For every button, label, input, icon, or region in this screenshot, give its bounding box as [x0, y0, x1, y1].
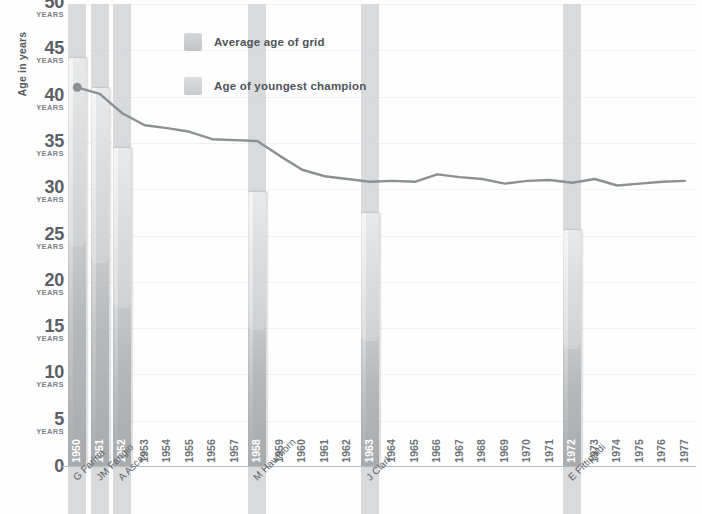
gridline-40	[66, 97, 696, 98]
gridline-50	[66, 4, 696, 5]
legend-item-youngest-champion[interactable]: Age of youngest champion	[184, 77, 366, 95]
year-label-1955: 1955	[184, 439, 195, 463]
y-tick-unit: YEARS	[22, 380, 64, 389]
year-label-1962: 1962	[341, 439, 352, 463]
legend-swatch-average-age	[184, 33, 202, 51]
y-tick-value: 40	[22, 88, 64, 103]
year-label-1966: 1966	[431, 439, 442, 463]
bar-lower-segment	[91, 248, 109, 467]
y-tick-unit: YEARS	[22, 334, 64, 343]
bar-lower-segment	[68, 231, 86, 467]
y-tick-unit: YEARS	[22, 10, 64, 19]
y-tick-0: 0	[22, 459, 64, 473]
y-tick-unit: YEARS	[22, 288, 64, 297]
year-label-1965: 1965	[409, 439, 420, 463]
plot-area: 1950195119521953195419551956195719581959…	[66, 4, 696, 467]
gridline-15	[66, 328, 696, 329]
y-tick-45: 45YEARS	[22, 41, 64, 65]
bar-1952[interactable]	[113, 147, 131, 467]
year-label-1971: 1971	[544, 439, 555, 463]
y-tick-unit: YEARS	[22, 103, 64, 112]
y-tick-value: 35	[22, 134, 64, 149]
year-label-1963: 1963	[364, 439, 375, 463]
y-tick-5: 5YEARS	[22, 412, 64, 436]
gridline-10	[66, 374, 696, 375]
gridline-5	[66, 421, 696, 422]
y-tick-value: 45	[22, 41, 64, 56]
y-tick-50: 50YEARS	[22, 0, 64, 19]
y-tick-15: 15YEARS	[22, 319, 64, 343]
year-label-1969: 1969	[499, 439, 510, 463]
y-tick-unit: YEARS	[22, 195, 64, 204]
year-label-1960: 1960	[296, 439, 307, 463]
year-label-1956: 1956	[206, 439, 217, 463]
year-label-1958: 1958	[251, 439, 262, 463]
year-label-1977: 1977	[679, 439, 690, 463]
bar-upper-segment	[68, 57, 86, 247]
year-label-1950: 1950	[71, 439, 82, 463]
y-tick-value: 25	[22, 227, 64, 242]
year-label-1968: 1968	[476, 439, 487, 463]
y-tick-30: 30YEARS	[22, 180, 64, 204]
y-tick-35: 35YEARS	[22, 134, 64, 158]
y-tick-unit: YEARS	[22, 149, 64, 158]
y-tick-value: 20	[22, 273, 64, 288]
gridline-35	[66, 143, 696, 144]
gridline-45	[66, 50, 696, 51]
bar-1972[interactable]	[563, 229, 581, 467]
bar-upper-segment	[563, 229, 581, 349]
y-tick-value: 15	[22, 319, 64, 334]
y-tick-value: 30	[22, 180, 64, 195]
legend-label-average-age: Average age of grid	[214, 36, 325, 48]
year-label-1954: 1954	[161, 439, 172, 463]
y-tick-unit: YEARS	[22, 56, 64, 65]
y-tick-value: 10	[22, 365, 64, 380]
bar-1963[interactable]	[361, 212, 379, 467]
chart-root: Age in years 50YEARS45YEARS40YEARS35YEAR…	[0, 0, 702, 514]
legend-item-average-age[interactable]: Average age of grid	[184, 33, 325, 51]
bar-upper-segment	[113, 147, 131, 308]
y-tick-value: 0	[22, 459, 64, 473]
bar-upper-segment	[361, 212, 379, 340]
year-label-1961: 1961	[319, 439, 330, 463]
gridline-30	[66, 189, 696, 190]
year-label-1970: 1970	[521, 439, 532, 463]
gridline-25	[66, 236, 696, 237]
gridline-20	[66, 282, 696, 283]
year-label-1974: 1974	[611, 439, 622, 463]
year-label-1957: 1957	[229, 439, 240, 463]
bar-1951[interactable]	[91, 87, 109, 467]
bar-upper-segment	[91, 87, 109, 263]
year-label-1972: 1972	[566, 439, 577, 463]
y-tick-unit: YEARS	[22, 242, 64, 251]
bar-upper-segment	[248, 191, 266, 330]
year-label-1975: 1975	[634, 439, 645, 463]
legend-swatch-youngest-champion	[184, 77, 202, 95]
y-tick-unit: YEARS	[22, 427, 64, 436]
y-tick-value: 5	[22, 412, 64, 427]
y-tick-10: 10YEARS	[22, 365, 64, 389]
legend-label-youngest-champion: Age of youngest champion	[214, 80, 366, 92]
y-tick-25: 25YEARS	[22, 227, 64, 251]
y-tick-20: 20YEARS	[22, 273, 64, 297]
bar-1950[interactable]	[68, 57, 86, 467]
year-label-1967: 1967	[454, 439, 465, 463]
year-label-1976: 1976	[656, 439, 667, 463]
y-tick-value: 50	[22, 0, 64, 10]
y-tick-40: 40YEARS	[22, 88, 64, 112]
bar-1958[interactable]	[248, 191, 266, 467]
